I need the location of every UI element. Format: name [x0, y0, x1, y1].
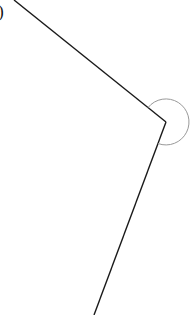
ray-lower: [94, 122, 166, 315]
angle-arc: [148, 99, 189, 145]
ray-upper: [14, 0, 166, 122]
angle-diagram: [0, 0, 191, 315]
